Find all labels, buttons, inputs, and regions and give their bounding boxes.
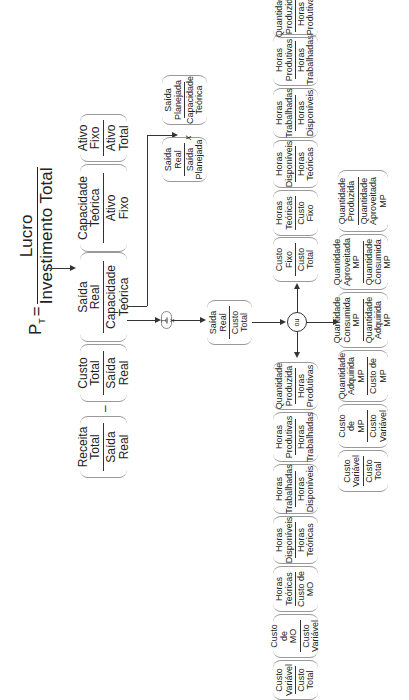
formula-lhs: PT [26,318,47,335]
fraction-saida-planejada: Saída RealSaída Planejada [162,137,207,182]
connector-saida-custo [252,322,282,323]
fraction-branch-material: Quantidade Consumida MPQuantidade Adquir… [338,292,388,348]
inverse-operator: 1x [161,311,172,329]
fraction-branch-labor: Horas TrabalhadasHoras Disponíveis [273,464,318,514]
arrow-icon [280,319,286,325]
formula-denominator: Investimento Total [38,168,57,305]
fraction-branch-labor: Horas TeóricasCusto de MO [273,566,318,612]
connector-saida-cap [127,306,147,307]
fraction-branch-labor: Custo de MOCusto Variável [273,614,318,658]
fraction-branch-fixed: Quantidade ProduzidaHoras Produtivas [273,0,318,38]
arrow-icon [294,352,300,358]
fraction-branch-material: Quantidade ProduzidaQuantidade Aproveita… [338,170,388,232]
connector-ou-up [297,288,298,312]
connector-saida-cap [147,135,148,306]
connector-ou-right [307,322,335,323]
formula: PT = Lucro Investimento Total [18,168,56,336]
fraction-branch-labor: Horas ProdutivasHoras Trabalhadas [273,412,318,462]
fraction-branch-material: Quantidade Adquirida MPCusto de MP [338,350,388,402]
fraction-branch-material: Custo VariávelCusto Total [338,450,388,492]
fraction-branch-material: Custo de MPCusto Variável [338,404,388,448]
or-node: ou [287,312,307,332]
formula-numerator: Lucro [18,215,37,258]
connector-formula [46,268,72,269]
fraction-custo-total: Custo TotalSaída Real [80,344,127,402]
fraction-branch-labor: Quantidade ProduzidaHoras Produtivas [273,362,318,410]
fraction-saida-custo: Saída RealCusto Total [207,300,252,345]
fraction-branch-fixed: Horas ProdutivasHoras Trabalhadas [273,34,318,86]
arrow-icon [294,283,300,289]
fraction-planejada-capacidade: Saída PlanejadaCapacidade Teórica [162,75,207,125]
minus-sign: – [98,405,112,412]
arrow-icon [70,265,76,271]
fraction-ativo: Ativo FixoAtivo Total [80,114,127,162]
fraction-branch-fixed: Horas TrabalhadasHoras Disponíveis [273,88,318,138]
fraction-branch-fixed: Custo FixoCusto Total [273,237,318,282]
fraction-branch-labor: Horas DisponíveisHoras Teóricas [273,516,318,564]
fraction-saida-capacidade: Saída RealCapacidade Teórica [80,252,127,342]
connector-ou-down [297,332,298,354]
connector-inverse [172,320,202,321]
arrow-icon [200,317,206,323]
times-sign: x [183,136,193,141]
fraction-branch-labor: Custo VariávelCusto Total [273,660,318,700]
connector-saida-cap [147,135,173,136]
fraction-branch-fixed: Horas TeóricasCusto Fixo [273,190,318,236]
fraction-branch-fixed: Horas DisponíveisHoras Teóricas [273,140,318,188]
connector-custo [127,320,157,321]
fraction-branch-material: Quantidade Aproveitada MPQuantidade Cons… [338,234,388,290]
formula-equals: = [27,306,47,316]
fraction-receita-total: Receita TotalSaída Real [80,416,127,478]
fraction-capacidade-ativo: Capacidade TeóricaAtivo Fixo [80,164,127,252]
